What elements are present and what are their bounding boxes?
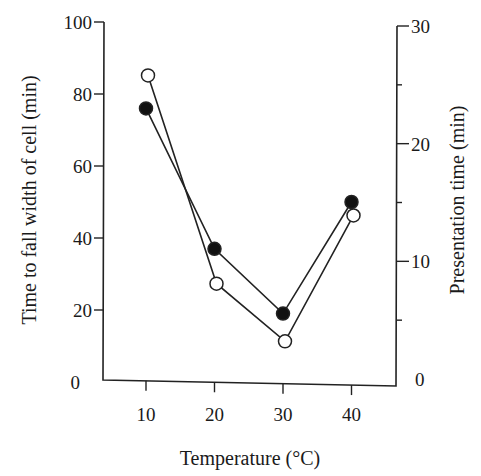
left-tick-label: 0 xyxy=(71,372,81,393)
y-axis-title-left: Time to fall width of cell (min) xyxy=(18,75,41,324)
fall-time-line xyxy=(146,108,352,313)
left-tick-label: 60 xyxy=(73,156,92,177)
x-axis-title: Temperature (°C) xyxy=(180,447,320,470)
x-tick-label: 20 xyxy=(205,404,224,425)
open-circle-marker xyxy=(210,277,223,290)
left-tick-label: 40 xyxy=(73,228,92,249)
open-circle-marker xyxy=(347,209,360,222)
left-tick-label: 100 xyxy=(64,12,93,33)
filled-circle-marker xyxy=(140,102,153,115)
x-tick-label: 30 xyxy=(274,404,293,425)
presentation-time-line xyxy=(148,75,354,341)
open-circle-marker xyxy=(142,69,155,82)
x-tick-label: 10 xyxy=(137,404,156,425)
right-tick-label: 0 xyxy=(415,369,425,390)
chart: 020406080100010203010203040 Temperature … xyxy=(0,0,481,476)
left-tick-label: 80 xyxy=(73,84,92,105)
right-tick-label: 20 xyxy=(411,134,430,155)
filled-circle-marker xyxy=(277,307,290,320)
y-axis-title-right: Presentation time (min) xyxy=(446,106,469,295)
left-tick-label: 20 xyxy=(73,300,92,321)
series-lines xyxy=(146,75,354,341)
right-tick-label: 30 xyxy=(411,16,430,37)
tick-labels: 020406080100010203010203040 xyxy=(64,12,431,425)
series-markers xyxy=(140,69,361,348)
filled-circle-marker xyxy=(208,242,221,255)
open-circle-marker xyxy=(279,335,292,348)
x-tick-label: 40 xyxy=(342,404,361,425)
filled-circle-marker xyxy=(345,196,358,209)
right-tick-label: 10 xyxy=(411,251,430,272)
